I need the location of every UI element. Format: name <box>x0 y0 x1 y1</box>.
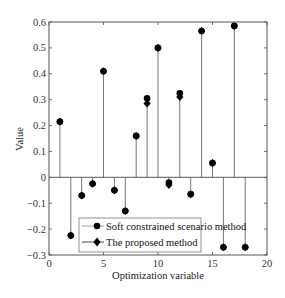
x-tick-label: 15 <box>207 258 218 269</box>
data-markers <box>56 22 249 251</box>
circle-marker <box>166 179 173 186</box>
circle-marker <box>133 133 140 140</box>
x-axis-label: Optimization variable <box>112 270 204 281</box>
circle-marker <box>100 68 107 75</box>
y-tick-label: 0.1 <box>33 146 46 157</box>
circle-marker <box>122 208 129 215</box>
circle-marker <box>57 118 64 125</box>
circle-marker <box>231 23 238 30</box>
y-tick-label: 0.6 <box>33 17 46 28</box>
circle-marker <box>177 90 184 97</box>
circle-marker <box>209 160 216 167</box>
circle-marker <box>144 95 151 102</box>
circle-marker <box>68 232 75 239</box>
y-tick-label: 0.2 <box>33 120 46 131</box>
circle-marker <box>155 45 162 52</box>
x-tick-label: 5 <box>101 258 106 269</box>
legend-label-soft: Soft constrained scenario method <box>106 221 247 232</box>
x-tick-label: 20 <box>262 258 273 269</box>
circle-marker <box>242 244 249 251</box>
x-tick-label: 0 <box>46 258 51 269</box>
circle-marker-icon <box>94 223 101 230</box>
y-tick-label: −0.3 <box>27 250 46 261</box>
circle-marker <box>187 191 194 198</box>
circle-marker <box>111 187 118 194</box>
y-tick-label: 0.5 <box>33 42 46 53</box>
circle-marker <box>198 28 205 35</box>
circle-marker <box>89 181 96 188</box>
x-tick-label: 10 <box>153 258 164 269</box>
y-tick-label: 0.3 <box>33 94 46 105</box>
legend-label-proposed: The proposed method <box>106 237 198 248</box>
circle-marker <box>220 244 227 251</box>
stem-lines <box>60 26 245 247</box>
circle-marker <box>78 192 85 199</box>
y-tick-label: 0.4 <box>33 68 47 79</box>
y-axis-label: Value <box>14 127 25 151</box>
y-tick-label: 0 <box>41 172 46 183</box>
y-tick-label: −0.1 <box>27 198 46 209</box>
y-tick-label: −0.2 <box>27 224 46 235</box>
stem-chart: 05101520 −0.3−0.2−0.100.10.20.30.40.50.6… <box>0 0 285 298</box>
